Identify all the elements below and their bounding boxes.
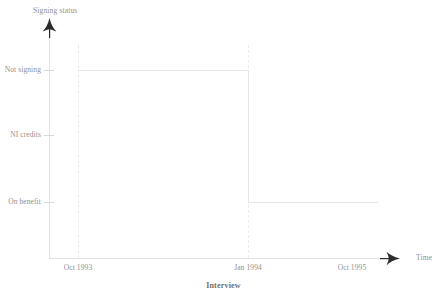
y-tick-label-on-benefit-wrap: On benefit: [0, 197, 41, 207]
series-segment-not-signing: [78, 70, 249, 71]
y-tick-label-ni-credits-wrap: NI credits: [0, 130, 41, 140]
series-segment-transition: [248, 70, 249, 203]
y-tick-mark-on-benefit: [44, 202, 54, 203]
y-tick-mark-ni-credits: [44, 135, 54, 136]
y-tick-label-on-benefit: On benefit: [8, 197, 41, 206]
y-tick-mark-not-signing: [44, 70, 54, 71]
y-axis-title: Signing status: [33, 6, 77, 15]
chart-caption: Interview: [0, 281, 447, 290]
step-chart: Signing status Time Not signing NI credi…: [0, 0, 447, 298]
series-segment-on-benefit: [248, 202, 378, 203]
x-tick-label-oct-1993: Oct 1993: [64, 263, 93, 272]
y-tick-label-not-signing-wrap: Not signing: [0, 65, 41, 75]
x-tick-label-jan-1994: Jan 1994: [234, 263, 262, 272]
x-axis-title: Time: [416, 253, 432, 262]
y-tick-label-not-signing: Not signing: [5, 65, 41, 74]
event-line-oct-1993: [78, 45, 79, 258]
x-axis-arrow-icon: [380, 251, 400, 266]
x-axis-line: [49, 258, 386, 259]
y-axis-arrow-icon: [42, 18, 57, 38]
scan-edge-artifact: [0, 0, 447, 3]
y-axis-line: [49, 30, 50, 259]
y-tick-label-ni-credits: NI credits: [10, 130, 41, 139]
x-tick-label-oct-1995: Oct 1995: [338, 263, 367, 272]
